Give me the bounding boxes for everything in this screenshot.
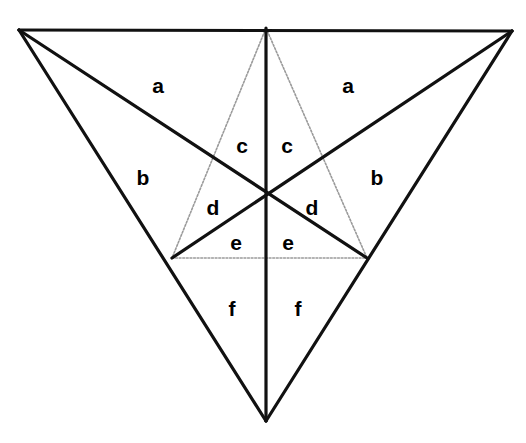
cevian-lines xyxy=(19,28,512,421)
right-edge xyxy=(266,31,512,421)
triangle-diagram: aaccbbddeeff xyxy=(0,0,526,443)
diagram-canvas xyxy=(0,0,526,443)
region-label-e-left: e xyxy=(230,232,242,253)
median-from-top-right-vertex xyxy=(172,31,512,258)
region-label-c-right: c xyxy=(281,135,293,156)
region-label-a-left: a xyxy=(152,75,164,96)
inner-triangle xyxy=(172,28,367,258)
inner-left-edge xyxy=(172,28,266,258)
top-edge xyxy=(19,30,512,31)
region-label-c-left: c xyxy=(236,135,248,156)
region-label-e-right: e xyxy=(282,232,294,253)
left-edge xyxy=(19,30,266,421)
median-from-top-left-vertex xyxy=(19,30,367,258)
region-label-b-right: b xyxy=(371,167,384,188)
region-label-d-left: d xyxy=(207,197,220,218)
region-label-b-left: b xyxy=(137,167,150,188)
region-label-a-right: a xyxy=(342,75,354,96)
region-label-f-left: f xyxy=(229,298,236,319)
region-label-d-right: d xyxy=(306,197,319,218)
region-label-f-right: f xyxy=(295,298,302,319)
